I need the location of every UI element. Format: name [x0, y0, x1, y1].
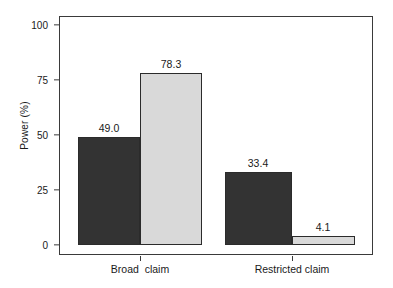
x-tick-label-broad-claim: Broad claim: [60, 263, 220, 275]
bar-chart-figure: Power (%) 100 75 50 25 0 49.0 78.3 33.4 …: [0, 0, 393, 288]
y-tick-label-50: 50: [8, 130, 48, 141]
y-tick-label-100: 100: [8, 20, 48, 31]
x-tick-mark-broad-claim: [140, 256, 141, 261]
bar-restricted-claim-dark: [225, 172, 292, 246]
y-tick-label-25: 25: [8, 185, 48, 196]
y-tick-label-0: 0: [8, 240, 48, 251]
y-axis-title: Power (%): [19, 86, 30, 166]
bar-value-restricted-dark: 33.4: [223, 157, 293, 169]
bar-broad-claim-light: [140, 73, 202, 245]
bar-broad-claim-dark: [78, 137, 140, 245]
x-tick-mark-restricted-claim: [292, 256, 293, 261]
bar-value-restricted-light: 4.1: [288, 221, 358, 233]
bar-restricted-claim-light: [292, 236, 355, 245]
bar-value-broad-dark: 49.0: [74, 122, 144, 134]
bar-value-broad-light: 78.3: [136, 58, 206, 70]
x-tick-label-restricted-claim: Restricted claim: [212, 263, 372, 275]
y-tick-label-75: 75: [8, 75, 48, 86]
